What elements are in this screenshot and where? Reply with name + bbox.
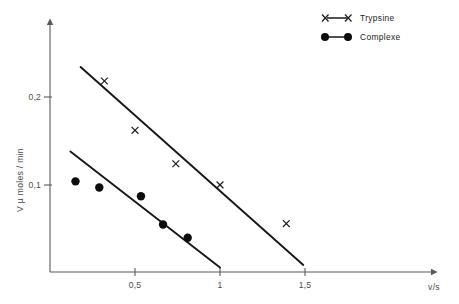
x-tick-label-1-5: 1,5 bbox=[299, 280, 312, 290]
data-point-x bbox=[283, 220, 290, 227]
legend-label-trypsine: Trypsine bbox=[360, 13, 395, 23]
fit-line-complexe bbox=[70, 151, 220, 267]
scatter-plot: 0,2 0,1 V µ moles / min 0,5 1 1,5 v/s bbox=[0, 0, 459, 304]
legend-label-complexe: Complexe bbox=[360, 32, 401, 42]
x-tick-label-0-5: 0,5 bbox=[129, 280, 142, 290]
data-point-circle bbox=[159, 220, 167, 228]
y-axis-title: V µ moles / min bbox=[15, 148, 25, 212]
data-point-x bbox=[101, 78, 108, 85]
data-point-circle bbox=[71, 177, 79, 185]
series-trypsine bbox=[81, 67, 304, 265]
data-point-x bbox=[217, 181, 224, 188]
legend-entry-complexe: Complexe bbox=[321, 32, 401, 42]
y-tick-label-0-1: 0,1 bbox=[28, 180, 41, 190]
data-point-circle bbox=[95, 183, 103, 191]
data-point-x bbox=[132, 127, 139, 134]
fit-line-trypsine bbox=[81, 67, 304, 265]
y-axis: 0,2 0,1 V µ moles / min bbox=[15, 24, 52, 272]
legend-circle-icon bbox=[321, 33, 329, 41]
x-tick-label-1: 1 bbox=[218, 280, 223, 290]
y-tick-label-0-2: 0,2 bbox=[28, 92, 41, 102]
legend: Trypsine Complexe bbox=[321, 13, 401, 42]
data-point-circle bbox=[184, 233, 192, 241]
data-series-layer bbox=[70, 67, 303, 268]
series-complexe bbox=[70, 151, 220, 267]
legend-entry-trypsine: Trypsine bbox=[322, 13, 395, 23]
data-point-circle bbox=[137, 192, 145, 200]
chart-figure: 0,2 0,1 V µ moles / min 0,5 1 1,5 v/s bbox=[0, 0, 459, 304]
data-point-x bbox=[172, 160, 179, 167]
x-axis: 0,5 1 1,5 v/s bbox=[50, 268, 440, 292]
x-axis-title: v/s bbox=[428, 282, 440, 292]
legend-circle-icon-end bbox=[344, 33, 352, 41]
